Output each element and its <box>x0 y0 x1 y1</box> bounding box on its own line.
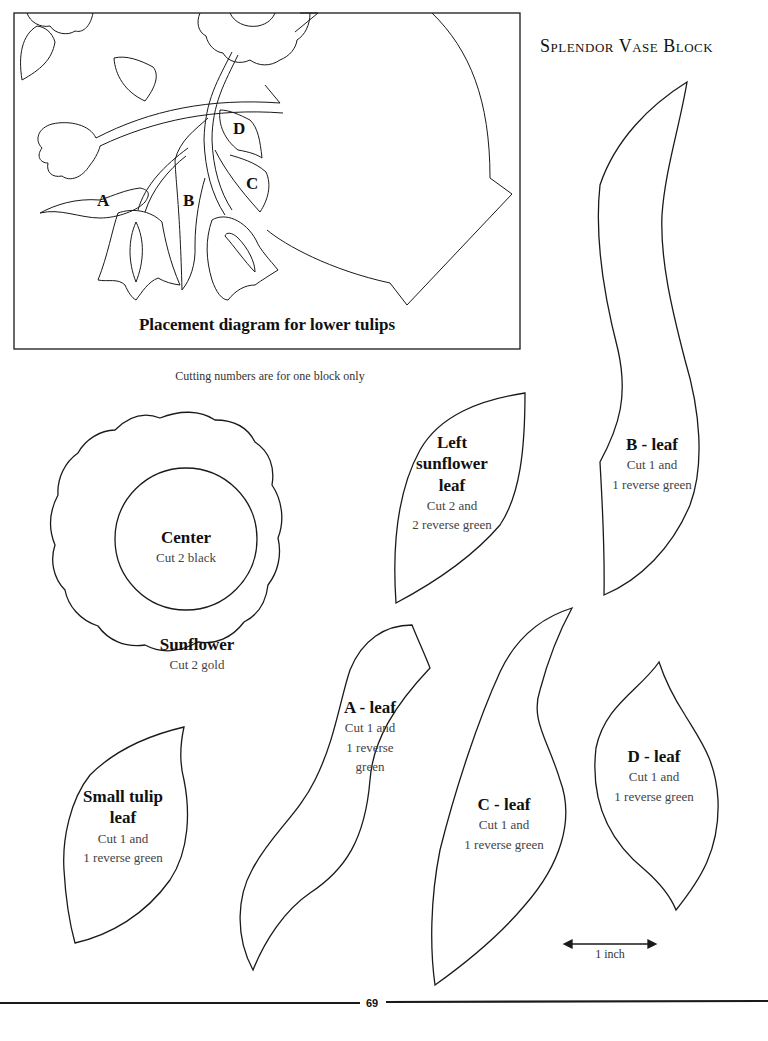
page-title: Splendor Vase Block <box>540 36 713 57</box>
small-tulip-leaf-cut-1: Cut 1 and <box>70 829 176 849</box>
sunflower-piece-cut: Cut 2 gold <box>137 655 257 675</box>
a-leaf-outline <box>240 625 430 970</box>
small-tulip-leaf-cut-2: 1 reverse green <box>70 848 176 868</box>
a-leaf-cut-2: 1 reverse <box>330 738 410 758</box>
a-leaf-label: A - leaf Cut 1 and 1 reverse green <box>330 697 410 777</box>
small-tulip-leaf-label: Small tulip leaf Cut 1 and 1 reverse gre… <box>70 786 176 868</box>
b-leaf-label: B - leaf Cut 1 and 1 reverse green <box>600 434 704 494</box>
d-leaf-label: D - leaf Cut 1 and 1 reverse green <box>602 746 706 806</box>
cutting-note: Cutting numbers are for one block only <box>0 369 540 384</box>
placement-diagram-caption: Placement diagram for lower tulips <box>14 315 520 335</box>
c-leaf-label: C - leaf Cut 1 and 1 reverse green <box>452 794 556 854</box>
footer-rule-right <box>386 1001 768 1002</box>
diagram-label-d: D <box>233 119 245 139</box>
d-leaf-cut-1: Cut 1 and <box>602 767 706 787</box>
a-leaf-cut-3: green <box>330 757 410 777</box>
center-piece-label: Center Cut 2 black <box>126 527 246 568</box>
b-leaf-cut-1: Cut 1 and <box>600 455 704 475</box>
b-leaf-outline <box>598 82 699 595</box>
d-leaf-name: D - leaf <box>602 746 706 767</box>
diagram-label-c: C <box>246 174 258 194</box>
sunflower-piece-name: Sunflower <box>137 634 257 655</box>
center-piece-cut: Cut 2 black <box>126 548 246 568</box>
b-leaf-name: B - leaf <box>600 434 704 455</box>
c-leaf-cut-1: Cut 1 and <box>452 815 556 835</box>
left-sunflower-leaf-name-2: sunflower <box>400 453 504 474</box>
c-leaf-cut-2: 1 reverse green <box>452 835 556 855</box>
b-leaf-cut-2: 1 reverse green <box>600 475 704 495</box>
small-tulip-leaf-name-2: leaf <box>70 807 176 828</box>
left-sunflower-leaf-label: Left sunflower leaf Cut 2 and 2 reverse … <box>400 432 504 535</box>
pattern-shapes <box>0 0 768 1041</box>
small-tulip-leaf-name-1: Small tulip <box>70 786 176 807</box>
d-leaf-cut-2: 1 reverse green <box>602 787 706 807</box>
placement-diagram-frame <box>14 13 520 349</box>
sunflower-piece-label: Sunflower Cut 2 gold <box>137 634 257 675</box>
c-leaf-name: C - leaf <box>452 794 556 815</box>
a-leaf-name: A - leaf <box>330 697 410 718</box>
left-sunflower-leaf-name-1: Left <box>400 432 504 453</box>
placement-diagram-art <box>21 13 512 305</box>
left-sunflower-leaf-cut-2: 2 reverse green <box>400 515 504 535</box>
diagram-label-b: B <box>183 191 194 211</box>
left-sunflower-leaf-name-3: leaf <box>400 475 504 496</box>
scale-label: 1 inch <box>560 947 660 962</box>
center-piece-name: Center <box>126 527 246 548</box>
page-number: 69 <box>366 997 378 1009</box>
diagram-label-a: A <box>97 191 109 211</box>
left-sunflower-leaf-cut-1: Cut 2 and <box>400 496 504 516</box>
a-leaf-cut-1: Cut 1 and <box>330 718 410 738</box>
